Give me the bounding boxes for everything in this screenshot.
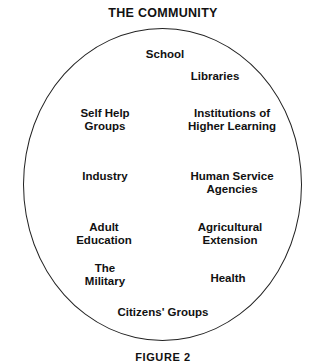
community-member-label: Health	[210, 272, 245, 285]
diagram-title: THE COMMUNITY	[0, 6, 326, 20]
community-diagram: THE COMMUNITY SchoolLibrariesSelf Help G…	[0, 0, 326, 361]
community-member-label: School	[146, 48, 184, 61]
community-member-label: Self Help Groups	[80, 107, 129, 133]
community-member-label: Libraries	[191, 70, 240, 83]
community-member-label: Industry	[82, 170, 127, 183]
figure-caption: FIGURE 2	[0, 351, 326, 361]
community-member-label: Institutions of Higher Learning	[188, 107, 276, 133]
community-member-label: The Military	[85, 262, 125, 288]
community-member-label: Human Service Agencies	[190, 170, 273, 196]
community-member-label: Agricultural Extension	[198, 221, 263, 247]
community-member-label: Adult Education	[76, 221, 132, 247]
community-member-label: Citizens' Groups	[118, 306, 209, 319]
